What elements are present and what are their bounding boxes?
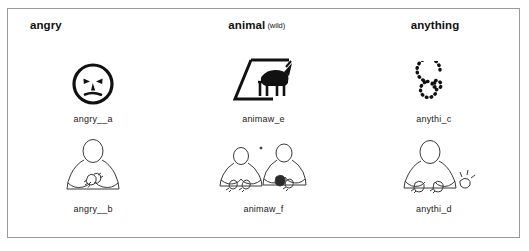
caption-angry-a: angry__a [8, 114, 178, 124]
headword-anything-label: anything [411, 19, 460, 31]
headword-anything: anything [411, 19, 460, 31]
sign-language-anything-illustration [349, 137, 519, 197]
entry-animaw-f: animaw_f [178, 137, 348, 214]
headword-angry: angry [30, 19, 62, 31]
headword-animal-qualifier: (wild) [265, 21, 285, 30]
entry-animaw-e: animaw_e [178, 47, 348, 124]
sign-language-angry-illustration [8, 137, 178, 197]
headword-angry-label: angry [30, 19, 62, 31]
sign-language-animal-illustration [178, 137, 348, 197]
column-angry: angry angry__a [8, 9, 178, 237]
entry-angry-a: angry__a [8, 47, 178, 124]
entry-anythi-c: anythi_c [349, 47, 519, 124]
headword-animal: animal(wild) [228, 19, 285, 31]
column-anything: anything anythi_c [349, 9, 519, 237]
wild-animal-pictograph [178, 47, 348, 107]
column-container: angry angry__a [8, 9, 519, 237]
column-animal: animal(wild) animaw_e [178, 9, 348, 237]
dotted-spiral-pictograph [349, 47, 519, 107]
caption-anythi-c: anythi_c [349, 114, 519, 124]
figure-panel: angry angry__a [7, 8, 520, 238]
headword-animal-label: animal [228, 19, 265, 31]
caption-anythi-d: anythi_d [349, 204, 519, 214]
angry-face-pictograph [8, 47, 178, 107]
caption-animaw-e: animaw_e [178, 114, 348, 124]
entry-anythi-d: anythi_d [349, 137, 519, 214]
entry-angry-b: angry__b [8, 137, 178, 214]
caption-animaw-f: animaw_f [178, 204, 348, 214]
caption-angry-b: angry__b [8, 204, 178, 214]
